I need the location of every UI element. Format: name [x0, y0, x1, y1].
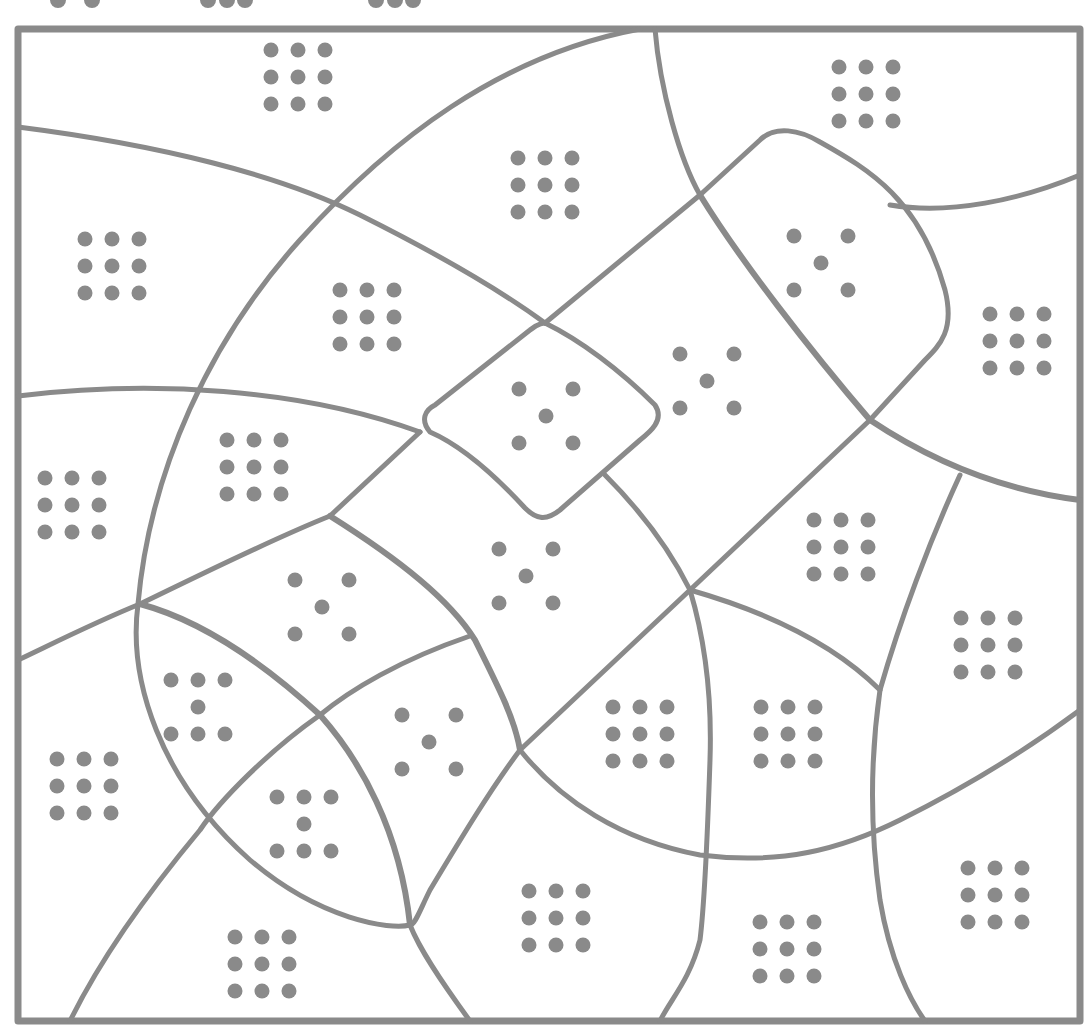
dot — [360, 310, 375, 325]
dot — [576, 938, 591, 953]
dot — [511, 151, 526, 166]
dot — [104, 806, 119, 821]
dot — [78, 232, 93, 247]
dot — [549, 938, 564, 953]
boundary-line — [605, 475, 710, 1021]
region-boundaries — [18, 29, 1080, 1021]
dot — [282, 984, 297, 999]
dot — [983, 361, 998, 376]
dot — [291, 70, 306, 85]
dot — [753, 969, 768, 984]
dot — [660, 727, 675, 742]
boundary-line — [890, 175, 1080, 208]
dot — [387, 337, 402, 352]
dot — [270, 844, 285, 859]
dot — [288, 573, 303, 588]
region-r14-dots — [288, 573, 357, 642]
dot — [576, 884, 591, 899]
partial-dot — [84, 0, 100, 8]
dot — [781, 727, 796, 742]
region-r13-dots — [807, 513, 876, 582]
dot — [333, 337, 348, 352]
dot — [861, 567, 876, 582]
boundary-line — [700, 195, 1080, 500]
dot — [50, 806, 65, 821]
region-r05-dots — [333, 283, 402, 352]
dot — [549, 884, 564, 899]
top-partial-dots — [50, 0, 421, 8]
region-r24-dots — [228, 930, 297, 999]
dot — [807, 969, 822, 984]
dot — [961, 888, 976, 903]
dot — [673, 347, 688, 362]
dot — [228, 930, 243, 945]
dot — [318, 70, 333, 85]
dot — [255, 930, 270, 945]
dot — [859, 60, 874, 75]
region-r16-dots — [164, 673, 233, 742]
dot — [565, 151, 580, 166]
partial-dot — [405, 0, 421, 8]
dot — [781, 754, 796, 769]
dot — [1037, 361, 1052, 376]
dot — [218, 673, 233, 688]
boundary-line — [18, 127, 545, 323]
dot — [38, 498, 53, 513]
dot — [1015, 915, 1030, 930]
dot — [1010, 307, 1025, 322]
region-r20-dots — [50, 752, 119, 821]
dot — [105, 232, 120, 247]
partial-dot — [50, 0, 66, 8]
dot — [780, 969, 795, 984]
dot — [387, 283, 402, 298]
region-r10-dots — [220, 433, 289, 502]
dot — [1015, 861, 1030, 876]
dot — [753, 942, 768, 957]
dot — [983, 307, 998, 322]
boundary-line — [330, 516, 520, 750]
region-dot-patterns — [38, 43, 1052, 999]
dot — [1037, 334, 1052, 349]
dot — [264, 70, 279, 85]
dot — [538, 205, 553, 220]
dot — [787, 283, 802, 298]
dot — [291, 97, 306, 112]
dot — [808, 754, 823, 769]
dot — [220, 460, 235, 475]
boundary-line — [70, 636, 470, 1021]
dot — [78, 259, 93, 274]
boundary-line — [655, 29, 700, 195]
dot — [50, 779, 65, 794]
region-r11-dots — [38, 471, 107, 540]
dot — [274, 487, 289, 502]
region-r17-dots — [395, 708, 464, 777]
dot — [814, 256, 829, 271]
dot — [492, 596, 507, 611]
dot — [606, 700, 621, 715]
dot — [538, 178, 553, 193]
region-r04-dots — [78, 232, 147, 301]
dot — [220, 433, 235, 448]
dot — [255, 957, 270, 972]
partial-dot — [387, 0, 403, 8]
dot — [511, 178, 526, 193]
boundary-line — [18, 388, 420, 432]
boundary-line — [873, 475, 961, 1021]
dot — [282, 930, 297, 945]
dot — [954, 611, 969, 626]
dot — [886, 87, 901, 102]
dot — [247, 487, 262, 502]
dot — [1008, 638, 1023, 653]
dot — [546, 542, 561, 557]
dot — [606, 727, 621, 742]
dot — [449, 762, 464, 777]
region-r07-dots — [983, 307, 1052, 376]
region-r08-dots — [512, 382, 581, 451]
dot — [606, 754, 621, 769]
dot — [360, 337, 375, 352]
dot — [132, 232, 147, 247]
dot — [324, 844, 339, 859]
puzzle-frame — [18, 29, 1080, 1021]
partial-dot — [368, 0, 384, 8]
dot — [50, 752, 65, 767]
